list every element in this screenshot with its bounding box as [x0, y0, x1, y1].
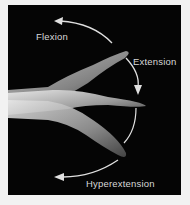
hyperextension-label: Hyperextension	[86, 178, 155, 189]
flexion-label: Flexion	[36, 31, 68, 42]
figure-panel: Flexion Extension Hyperextension	[8, 5, 181, 195]
hand-illustration	[8, 5, 181, 195]
extension-label: Extension	[133, 56, 177, 67]
